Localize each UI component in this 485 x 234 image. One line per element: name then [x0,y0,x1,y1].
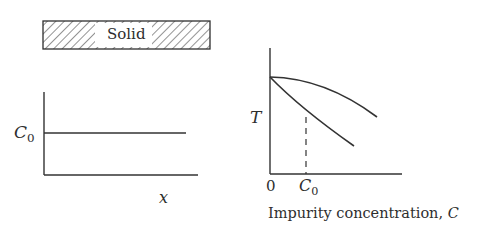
solid-label: Solid [107,27,146,42]
right-x-tick-zero: 0 [266,179,276,194]
right-c0-subscript: 0 [311,185,318,198]
left-c0-symbol: C [14,122,27,142]
right-x-axis-label: Impurity concentration, C [268,206,459,221]
upper-curve [270,77,377,117]
diagram-canvas [0,0,485,234]
right-y-axis-label: T [250,109,261,126]
left-plot [44,92,198,175]
left-x-axis-label: x [159,190,168,206]
right-c0-symbol: C [299,176,311,195]
right-x-tick-c0: C0 [299,178,318,197]
right-x-axis-label-text: Impurity concentration, [268,205,448,221]
right-plot [270,48,402,174]
lower-curve [270,77,354,146]
left-c0-subscript: 0 [27,131,35,145]
left-c0-label: C0 [14,124,35,145]
right-x-axis-label-var: C [448,205,459,221]
